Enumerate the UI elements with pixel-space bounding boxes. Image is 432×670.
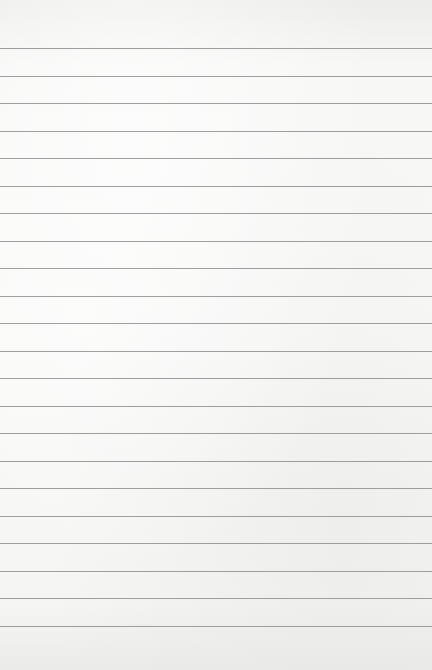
ruled-line [0, 626, 432, 627]
ruled-line [0, 488, 432, 489]
ruled-line [0, 48, 432, 49]
ruled-line [0, 323, 432, 324]
ruled-line [0, 406, 432, 407]
ruled-line [0, 351, 432, 352]
ruled-line [0, 76, 432, 77]
ruled-line [0, 516, 432, 517]
ruled-line [0, 378, 432, 379]
ruled-line [0, 213, 432, 214]
ruled-line [0, 571, 432, 572]
ruled-line [0, 598, 432, 599]
ruled-line [0, 543, 432, 544]
lined-paper-sheet [0, 0, 432, 670]
ruled-line [0, 268, 432, 269]
ruled-line [0, 461, 432, 462]
ruled-line [0, 103, 432, 104]
ruled-line [0, 186, 432, 187]
ruled-line [0, 158, 432, 159]
ruled-line [0, 296, 432, 297]
ruled-line [0, 433, 432, 434]
ruled-line [0, 241, 432, 242]
ruled-line [0, 131, 432, 132]
